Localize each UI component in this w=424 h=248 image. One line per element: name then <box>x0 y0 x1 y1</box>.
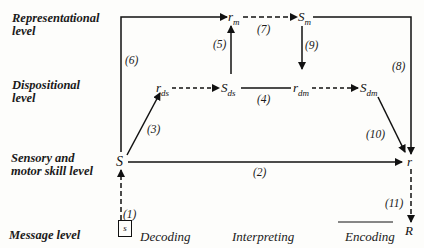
node-sub: ds <box>161 88 169 98</box>
node-sub: ds <box>228 88 236 98</box>
node-s-dm: Sdm <box>360 80 378 98</box>
path-label-1: (1) <box>123 208 136 220</box>
level-sensory: Sensory and motor skill level <box>11 152 93 178</box>
path-label-3: (3) <box>147 123 160 135</box>
path-6 <box>121 17 227 152</box>
node-sub: m <box>305 17 312 27</box>
level-label-line: motor skill level <box>11 165 93 178</box>
node-r-dm: rdm <box>293 80 309 98</box>
path-label-11: (11) <box>385 197 403 209</box>
node-s-ds: Sds <box>221 80 236 98</box>
path-label-4: (4) <box>257 93 270 105</box>
process-interpreting: Interpreting <box>232 229 294 245</box>
level-label-line: level <box>12 25 100 38</box>
node-sub: dm <box>298 88 309 98</box>
path-label-9: (9) <box>305 39 318 51</box>
node-r-m: rm <box>228 9 240 27</box>
node-response: R <box>405 223 413 239</box>
node-message-box: s <box>118 220 132 237</box>
level-representational: Representational level <box>12 12 100 38</box>
level-message: Message level <box>9 229 80 242</box>
path-label-7: (7) <box>257 23 270 35</box>
node-sub: m <box>233 17 240 27</box>
path-label-6: (6) <box>125 54 138 66</box>
path-label-5: (5) <box>213 38 226 50</box>
level-dispositional: Dispositional level <box>12 79 80 105</box>
node-s-sensory: S <box>116 154 123 170</box>
process-encoding: Encoding <box>345 229 395 245</box>
node-s-m: Sm <box>298 9 311 27</box>
level-label-line: level <box>12 92 80 105</box>
path-10 <box>378 97 405 152</box>
process-decoding: Decoding <box>140 229 191 245</box>
path-label-10: (10) <box>366 128 385 140</box>
node-r-ds: rds <box>156 80 169 98</box>
node-r-motor: r <box>407 154 412 170</box>
node-sub: dm <box>367 88 378 98</box>
path-label-2: (2) <box>253 166 266 178</box>
path-label-8: (8) <box>392 60 405 72</box>
